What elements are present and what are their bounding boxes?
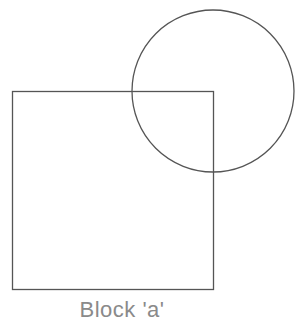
block-diagram bbox=[0, 0, 305, 336]
block-caption: Block 'a' bbox=[0, 297, 244, 323]
block-square bbox=[13, 92, 214, 290]
